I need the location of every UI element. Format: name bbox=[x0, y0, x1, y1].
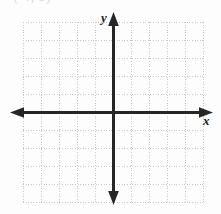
x-axis-label: x bbox=[203, 113, 210, 129]
x-axis bbox=[10, 107, 213, 118]
y-axis-arrow-up bbox=[108, 12, 119, 26]
x-axis-arrow-left bbox=[10, 107, 24, 118]
y-axis-label: y bbox=[101, 10, 107, 26]
worksheet-figure: ( 4, 3) bbox=[0, 0, 221, 214]
coordinate-plane: y x bbox=[0, 0, 221, 214]
coordinate-plane-svg bbox=[0, 0, 221, 214]
